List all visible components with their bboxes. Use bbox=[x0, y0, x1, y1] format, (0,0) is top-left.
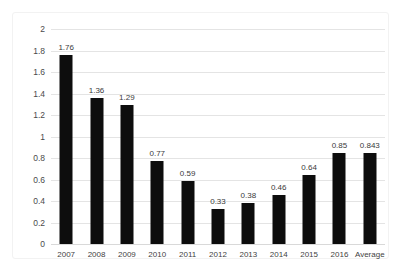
bar-group[interactable]: 0.462014 bbox=[264, 29, 294, 244]
bar-group[interactable]: 1.292009 bbox=[112, 29, 142, 244]
bar-group[interactable]: 0.852016 bbox=[324, 29, 354, 244]
bar-value-label: 0.85 bbox=[332, 142, 348, 150]
bar-value-label: 1.36 bbox=[89, 87, 105, 95]
bar-value-label: 1.76 bbox=[58, 44, 74, 52]
y-axis-tick-label: 1.2 bbox=[33, 111, 45, 120]
bar-series: 1.7620071.3620081.2920090.7720100.592011… bbox=[51, 29, 385, 244]
bar-value-label: 0.64 bbox=[301, 164, 317, 172]
chart-frame: 00.20.40.60.811.21.41.61.82 1.7620071.36… bbox=[12, 12, 389, 259]
bar-group[interactable]: 1.362008 bbox=[81, 29, 111, 244]
plot-area: 00.20.40.60.811.21.41.61.82 1.7620071.36… bbox=[51, 29, 385, 244]
bar-group[interactable]: 0.332012 bbox=[203, 29, 233, 244]
bar-group[interactable]: 0.772010 bbox=[142, 29, 172, 244]
x-axis-tick-label: 2010 bbox=[148, 251, 166, 259]
bar[interactable] bbox=[120, 105, 133, 244]
y-axis-tick-label: 0.8 bbox=[33, 154, 45, 163]
x-axis-tick-label: 2015 bbox=[300, 251, 318, 259]
bar-group[interactable]: 0.642015 bbox=[294, 29, 324, 244]
bar-group[interactable]: 0.843Average bbox=[355, 29, 385, 244]
bar[interactable] bbox=[242, 203, 255, 244]
bar-value-label: 0.77 bbox=[149, 150, 165, 158]
bar[interactable] bbox=[60, 55, 73, 244]
y-axis-tick-label: 2 bbox=[40, 25, 45, 34]
x-axis-tick-label: 2012 bbox=[209, 251, 227, 259]
bar[interactable] bbox=[333, 153, 346, 244]
bar-value-label: 0.38 bbox=[241, 192, 257, 200]
bar[interactable] bbox=[272, 195, 285, 244]
bar-group[interactable]: 0.382013 bbox=[233, 29, 263, 244]
bar-group[interactable]: 1.762007 bbox=[51, 29, 81, 244]
y-axis-tick-label: 1.8 bbox=[33, 46, 45, 55]
bar[interactable] bbox=[151, 161, 164, 244]
bar[interactable] bbox=[181, 181, 194, 244]
x-axis-tick-label: 2016 bbox=[331, 251, 349, 259]
bar-value-label: 0.46 bbox=[271, 184, 287, 192]
x-axis-tick-label: 2007 bbox=[57, 251, 75, 259]
bar[interactable] bbox=[211, 209, 224, 244]
y-axis-tick-label: 0 bbox=[40, 240, 45, 249]
bar[interactable] bbox=[303, 175, 316, 244]
y-axis-tick-label: 0.6 bbox=[33, 175, 45, 184]
y-axis-tick-label: 0.4 bbox=[33, 197, 45, 206]
x-axis-tick-label: 2011 bbox=[179, 251, 196, 259]
y-axis-tick-label: 1.6 bbox=[33, 68, 45, 77]
y-axis-tick-label: 1.4 bbox=[33, 89, 45, 98]
x-axis-tick-label: 2013 bbox=[239, 251, 257, 259]
bar-group[interactable]: 0.592011 bbox=[172, 29, 202, 244]
bar-value-label: 0.33 bbox=[210, 198, 226, 206]
x-axis-tick-label: 2009 bbox=[118, 251, 136, 259]
x-axis-tick-label: 2008 bbox=[88, 251, 106, 259]
bar-value-label: 0.59 bbox=[180, 170, 196, 178]
bar-value-label: 1.29 bbox=[119, 94, 135, 102]
gridline bbox=[51, 244, 385, 245]
bar-value-label: 0.843 bbox=[360, 142, 380, 150]
y-axis-tick-label: 1 bbox=[40, 132, 45, 141]
y-axis-tick-label: 0.2 bbox=[33, 218, 45, 227]
bar[interactable] bbox=[363, 153, 376, 244]
x-axis-tick-label: 2014 bbox=[270, 251, 288, 259]
x-axis-tick-label: Average bbox=[355, 251, 385, 259]
bar[interactable] bbox=[90, 98, 103, 244]
